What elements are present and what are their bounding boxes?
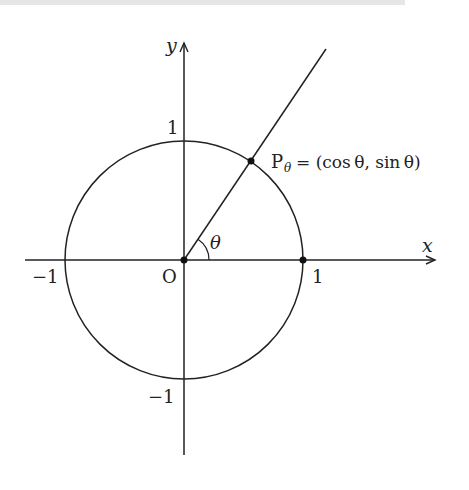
point-one-on-x	[300, 257, 307, 264]
tick-label-x-pos: 1	[312, 266, 323, 287]
angle-arc	[198, 239, 209, 260]
angle-label: θ	[210, 232, 221, 253]
origin-label: O	[162, 266, 177, 287]
point-p-label: P θ = (cos θ, sin θ)	[271, 151, 421, 175]
tick-label-y-pos: 1	[167, 117, 178, 138]
y-axis-label: y	[165, 34, 177, 56]
point-subscript: θ	[284, 161, 292, 175]
point-name: P	[271, 151, 283, 172]
point-coordinates: = (cos θ, sin θ)	[296, 152, 421, 172]
tick-label-y-neg: −1	[148, 386, 175, 407]
unit-circle-diagram: y x O 1 −1 1 −1 θ P θ = (cos θ, sin θ)	[0, 0, 469, 490]
origin-point	[181, 257, 188, 264]
x-axis-label: x	[422, 234, 433, 256]
tick-label-x-neg: −1	[32, 266, 59, 287]
point-p-theta	[248, 158, 255, 165]
